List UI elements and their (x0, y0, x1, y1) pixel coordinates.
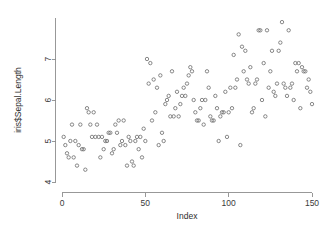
y-tick-label: 5 (43, 138, 53, 143)
y-tick-label: 4 (43, 179, 53, 184)
x-tick-label: 50 (141, 198, 151, 208)
plot-canvas: 4567 iris$Sepal.Length 050100150 Index (0, 0, 332, 243)
y-tick-label: 6 (43, 97, 53, 102)
x-tick-label: 100 (222, 198, 236, 208)
x-axis-title: Index (177, 211, 199, 221)
plot-background (0, 0, 332, 243)
y-tick-label: 7 (43, 56, 53, 61)
y-axis-title: iris$Sepal.Length (13, 67, 23, 133)
x-tick-label: 150 (305, 198, 319, 208)
x-tick-label: 0 (60, 198, 65, 208)
scatter-plot-figure: 4567 iris$Sepal.Length 050100150 Index (0, 0, 332, 243)
